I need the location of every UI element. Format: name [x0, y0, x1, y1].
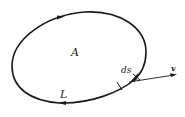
area-label-A: A — [70, 46, 79, 59]
element-label-ds: ds — [121, 65, 132, 75]
curve-label-L: L — [59, 88, 67, 101]
direction-arrow-bottom-icon — [58, 101, 66, 105]
diagram-canvas: A L ds v — [0, 0, 185, 117]
closed-curve-L — [12, 12, 146, 103]
vector-label-v: v — [171, 63, 176, 73]
vector-v-arrowhead-icon — [170, 73, 177, 77]
